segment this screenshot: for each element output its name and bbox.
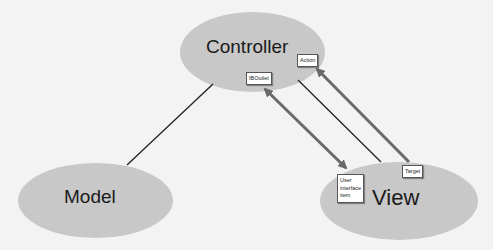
- mvc-diagram: Controller Model View Action IBOutlet Ta…: [0, 0, 493, 250]
- ui-item-line1: User: [340, 177, 361, 185]
- model-controller-link: [127, 84, 213, 165]
- view-label: View: [372, 185, 419, 211]
- model-label: Model: [64, 186, 116, 208]
- iboutlet-tag: IBOutlet: [246, 72, 272, 85]
- target-tag: Target: [402, 165, 423, 178]
- action-tag: Action: [297, 54, 318, 67]
- target-action-arrow: [317, 69, 409, 162]
- outlet-arrow: [265, 89, 346, 168]
- ui-item-line2: interface: [340, 185, 361, 193]
- ui-item-line3: item: [340, 192, 361, 200]
- controller-label: Controller: [206, 36, 288, 58]
- user-interface-item-tag: User interface item: [337, 174, 364, 203]
